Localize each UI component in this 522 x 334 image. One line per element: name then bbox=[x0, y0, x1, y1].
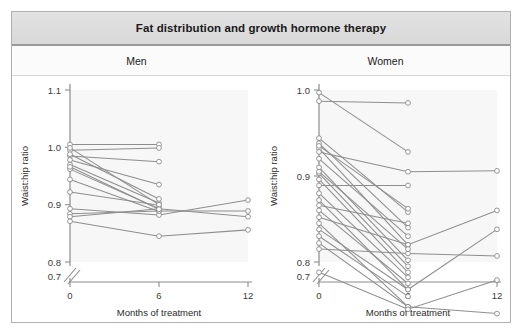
series-point bbox=[68, 146, 73, 151]
x-tick-label: 12 bbox=[243, 290, 254, 301]
series-point bbox=[406, 307, 411, 312]
series-point bbox=[246, 227, 251, 232]
series-point bbox=[157, 234, 162, 239]
series-point bbox=[317, 156, 322, 161]
x-tick-label: 0 bbox=[67, 290, 72, 301]
series-point bbox=[317, 203, 322, 208]
series-point bbox=[406, 270, 411, 275]
panel-header-women: Women bbox=[261, 46, 510, 75]
series-point bbox=[317, 247, 322, 252]
series-point bbox=[406, 206, 411, 211]
series-point bbox=[495, 208, 500, 213]
y-tick-label: 0.7 bbox=[48, 271, 61, 282]
series-point bbox=[317, 169, 322, 174]
series-point bbox=[406, 221, 411, 226]
series-point bbox=[317, 99, 322, 104]
series-point bbox=[406, 234, 411, 239]
series-point bbox=[406, 294, 411, 299]
series-point bbox=[495, 311, 500, 316]
series-point bbox=[68, 206, 73, 211]
series-point bbox=[157, 197, 162, 202]
series-point bbox=[157, 202, 162, 207]
panel-header-men-label: Men bbox=[126, 55, 146, 67]
series-point bbox=[317, 177, 322, 182]
panel-women: 0.70.80.91.00612Months of treatmentWaist… bbox=[261, 76, 510, 322]
series-point bbox=[317, 270, 322, 275]
y-tick-label: 0.9 bbox=[297, 171, 310, 182]
series-point bbox=[406, 287, 411, 292]
series-point bbox=[317, 144, 322, 149]
series-point bbox=[157, 182, 162, 187]
series-point bbox=[246, 214, 251, 219]
series-point bbox=[157, 146, 162, 151]
panel-header-men: Men bbox=[12, 46, 261, 75]
series-point bbox=[68, 177, 73, 182]
x-tick-label: 6 bbox=[156, 290, 161, 301]
y-tick-label: 0.8 bbox=[297, 257, 310, 268]
series-point bbox=[68, 158, 73, 163]
y-axis-title: Waist:hip ratio bbox=[19, 146, 30, 206]
panel-header-women-label: Women bbox=[368, 55, 404, 67]
series-point bbox=[317, 208, 322, 213]
series-point bbox=[406, 169, 411, 174]
y-tick-label: 0.9 bbox=[48, 199, 61, 210]
series-point bbox=[406, 281, 411, 286]
y-tick-label: 1.1 bbox=[48, 85, 61, 96]
series-point bbox=[317, 198, 322, 203]
y-axis-title: Waist:hip ratio bbox=[268, 146, 279, 206]
series-point bbox=[317, 136, 322, 141]
series-point bbox=[317, 241, 322, 246]
series-point bbox=[406, 275, 411, 280]
figure-title: Fat distribution and growth hormone ther… bbox=[136, 22, 386, 34]
series-point bbox=[317, 90, 322, 95]
y-tick-label: 0.8 bbox=[48, 257, 61, 268]
series-point bbox=[406, 258, 411, 263]
series-point bbox=[495, 168, 500, 173]
series-point bbox=[68, 219, 73, 224]
y-tick-label: 1.0 bbox=[297, 85, 310, 96]
x-tick-label: 12 bbox=[492, 290, 503, 301]
x-tick-label: 0 bbox=[316, 290, 321, 301]
series-point bbox=[317, 191, 322, 196]
series-point bbox=[495, 278, 500, 283]
series-point bbox=[317, 234, 322, 239]
series-point bbox=[406, 264, 411, 269]
panel-header-row: Men Women bbox=[12, 46, 510, 76]
series-point bbox=[317, 221, 322, 226]
men-plot: 0.70.80.91.01.10612Months of treatmentWa… bbox=[12, 76, 261, 322]
series-point bbox=[68, 190, 73, 195]
series-point bbox=[246, 198, 251, 203]
series-point bbox=[495, 254, 500, 259]
series-point bbox=[246, 209, 251, 214]
y-tick-label: 0.7 bbox=[297, 271, 310, 282]
women-plot: 0.70.80.91.00612Months of treatmentWaist… bbox=[261, 76, 510, 322]
series-point bbox=[495, 227, 500, 232]
series-point bbox=[317, 215, 322, 220]
figure-title-bar: Fat distribution and growth hormone ther… bbox=[12, 12, 510, 46]
series-point bbox=[317, 227, 322, 232]
series-point bbox=[406, 101, 411, 106]
figure-container: Fat distribution and growth hormone ther… bbox=[11, 11, 511, 323]
series-point bbox=[406, 247, 411, 252]
series-point bbox=[317, 183, 322, 188]
series-point bbox=[317, 150, 322, 155]
plots-row: 0.70.80.91.01.10612Months of treatmentWa… bbox=[12, 76, 510, 322]
series-point bbox=[157, 207, 162, 212]
series-point bbox=[406, 150, 411, 155]
series-point bbox=[68, 152, 73, 157]
x-axis-title: Months of treatment bbox=[117, 307, 202, 318]
panel-men: 0.70.80.91.01.10612Months of treatmentWa… bbox=[12, 76, 261, 322]
series-point bbox=[68, 164, 73, 169]
y-tick-label: 1.0 bbox=[48, 142, 61, 153]
series-point bbox=[68, 214, 73, 219]
series-point bbox=[406, 183, 411, 188]
series-point bbox=[157, 159, 162, 164]
